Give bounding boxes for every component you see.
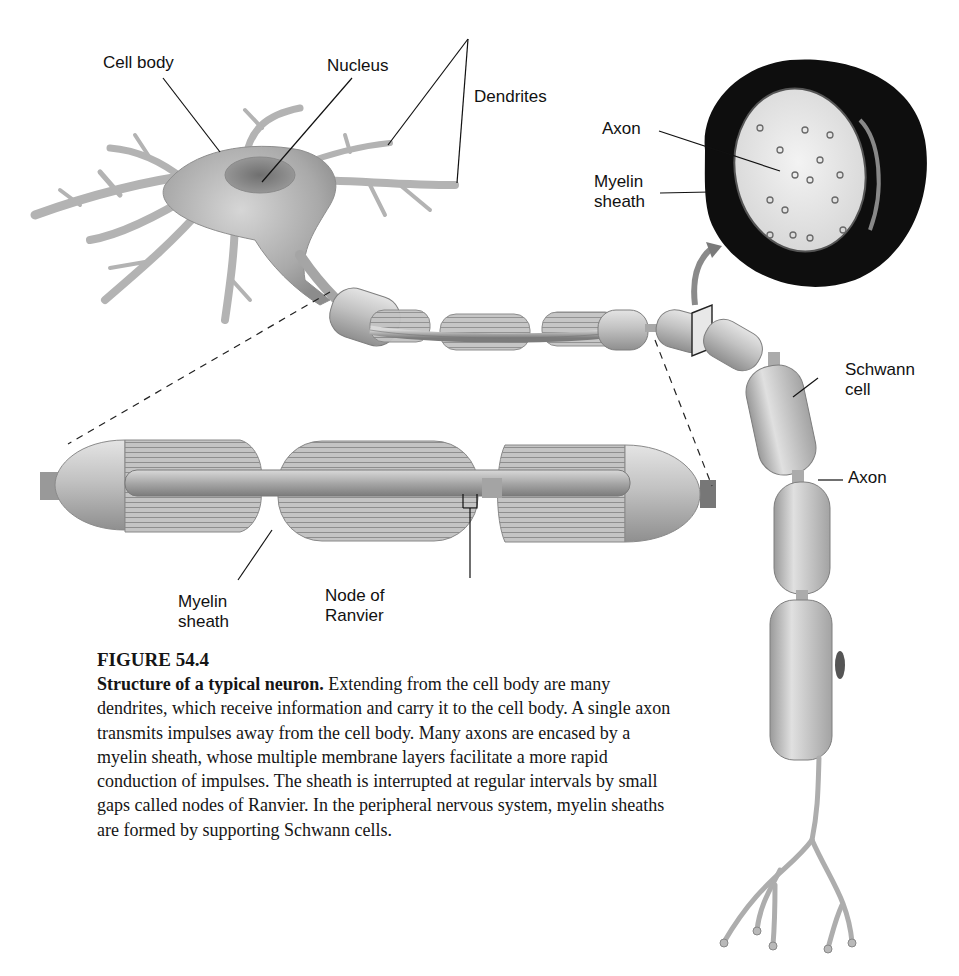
label-axon: Axon: [848, 468, 887, 488]
label-myelin-sheath: Myelin sheath: [178, 592, 229, 632]
label-dendrites: Dendrites: [474, 87, 547, 107]
figure-number: FIGURE 54.4: [97, 648, 677, 672]
caption-text: Structure of a typical neuron. Extending…: [97, 672, 677, 842]
enlarged-myelin-segment: [40, 440, 716, 542]
label-nucleus: Nucleus: [327, 56, 388, 76]
cross-section-arrow: [694, 248, 712, 305]
label-cross-section-axon: Axon: [602, 119, 641, 139]
label-cell-body: Cell body: [103, 53, 174, 73]
nucleus-shape: [225, 157, 295, 193]
caption-body: Extending from the cell body are many de…: [97, 674, 670, 840]
axon-cross-section: [705, 59, 927, 287]
schwann-cell-chain: [720, 352, 856, 953]
neuron-figure: Cell body Nucleus Dendrites Axon Myelin …: [0, 0, 959, 976]
figure-caption: FIGURE 54.4 Structure of a typical neuro…: [97, 648, 677, 842]
myelinated-axon-top: [324, 282, 769, 377]
label-schwann-cell: Schwann cell: [845, 360, 915, 400]
label-cross-section-myelin: Myelin sheath: [594, 172, 645, 212]
label-node-of-ranvier: Node of Ranvier: [325, 586, 385, 626]
figure-title: Structure of a typical neuron.: [97, 674, 324, 694]
